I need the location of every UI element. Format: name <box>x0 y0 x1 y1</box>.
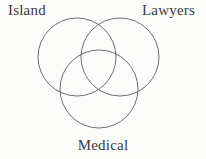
venn-diagram: Island Lawyers Medical <box>0 0 206 159</box>
venn-circles-group <box>0 0 206 159</box>
venn-label-lawyers: Lawyers <box>142 2 195 19</box>
venn-circle-lawyers <box>81 18 159 96</box>
venn-label-medical: Medical <box>0 137 206 154</box>
venn-label-island: Island <box>8 2 46 19</box>
